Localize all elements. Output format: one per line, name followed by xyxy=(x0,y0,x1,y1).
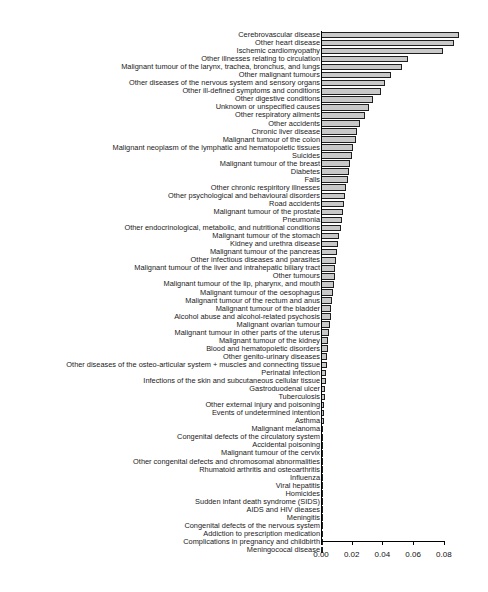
bar-row: Malignant tumour of the breast xyxy=(0,160,488,168)
bar-rows: Cerebrovascular diseaseOther heart disea… xyxy=(0,31,488,554)
bar xyxy=(321,217,342,224)
x-tick-label: 0.08 xyxy=(436,550,452,560)
bar xyxy=(321,233,339,240)
bar-row: Other accidents xyxy=(0,120,488,128)
bar-row: Other respiratory ailments xyxy=(0,111,488,119)
bar xyxy=(321,225,341,232)
bar xyxy=(321,321,330,328)
bar-row: Asthma xyxy=(0,417,488,425)
bar xyxy=(321,386,325,393)
category-label: Meningococal disease xyxy=(247,546,320,554)
bar xyxy=(321,32,459,39)
x-tick xyxy=(413,541,414,545)
bar xyxy=(321,313,331,320)
bar xyxy=(321,337,328,344)
bar xyxy=(321,48,443,55)
bar xyxy=(321,40,454,47)
bar-row: Viral hepatitis xyxy=(0,482,488,490)
bar-row: Other psychological and behavioural diso… xyxy=(0,192,488,200)
bar xyxy=(321,370,326,377)
bar xyxy=(321,257,336,264)
bar xyxy=(321,241,338,248)
bar-row: Events of undetermined intention xyxy=(0,409,488,417)
x-tick xyxy=(382,541,383,545)
bar xyxy=(321,329,329,336)
x-tick xyxy=(352,541,353,545)
bar xyxy=(321,80,385,87)
x-tick-label: 0.06 xyxy=(405,550,421,560)
bar xyxy=(321,144,353,151)
bar xyxy=(321,353,327,360)
bar-row: Gastroduodenal ulcer xyxy=(0,385,488,393)
plot-area: Cerebrovascular diseaseOther heart disea… xyxy=(0,0,488,592)
bar xyxy=(321,56,408,63)
bar-row: Sudden infant death syndrome (SIDS) xyxy=(0,498,488,506)
bar xyxy=(321,176,348,183)
x-tick-label: 0.02 xyxy=(344,550,360,560)
category-label: Malignant neoplasm of the lymphatic and … xyxy=(113,144,320,152)
bar xyxy=(321,96,373,103)
bar-row: Malignant neoplasm of the lymphatic and … xyxy=(0,144,488,152)
bar-row: Diabetes xyxy=(0,168,488,176)
bar-row: Influenza xyxy=(0,474,488,482)
x-tick xyxy=(321,541,322,545)
bar xyxy=(321,120,360,127)
bar-row: AIDS and HIV dieases xyxy=(0,506,488,514)
bar-row: Infections of the skin and subcutaneous … xyxy=(0,377,488,385)
bar-row: Malignant tumour of the prostate xyxy=(0,208,488,216)
bar xyxy=(321,265,335,272)
x-tick-label: 0.00 xyxy=(313,550,329,560)
bar xyxy=(321,112,365,119)
y-axis-spine xyxy=(321,31,322,541)
bar xyxy=(321,305,331,312)
bar xyxy=(321,201,344,208)
bar xyxy=(321,104,369,111)
bar xyxy=(321,64,402,71)
bar xyxy=(321,193,345,200)
bar-row: Cerebrovascular disease xyxy=(0,31,488,39)
bar-row: Rhumatoid arthritis and osteoarthritis xyxy=(0,466,488,474)
bar xyxy=(321,160,350,167)
bar xyxy=(321,249,337,256)
bar xyxy=(321,209,343,216)
bar-row: Other diseases of the osteo-articular sy… xyxy=(0,361,488,369)
x-tick xyxy=(444,541,445,545)
bar xyxy=(321,184,346,191)
bar-row: Malignant tumour of the liver and intrah… xyxy=(0,264,488,272)
bar xyxy=(321,72,391,79)
bar xyxy=(321,289,333,296)
bar xyxy=(321,152,352,159)
bar xyxy=(321,281,334,288)
bar xyxy=(321,362,327,369)
bar xyxy=(321,168,349,175)
bar xyxy=(321,345,328,352)
bar xyxy=(321,136,356,143)
horizontal-bar-chart: Cerebrovascular diseaseOther heart disea… xyxy=(0,0,488,592)
bar xyxy=(321,378,326,385)
bar xyxy=(321,88,381,95)
bar xyxy=(321,297,332,304)
bar-row: Congenital defects of the circulatory sy… xyxy=(0,433,488,441)
bar xyxy=(321,128,357,135)
x-tick-label: 0.04 xyxy=(375,550,391,560)
bar xyxy=(321,273,335,280)
